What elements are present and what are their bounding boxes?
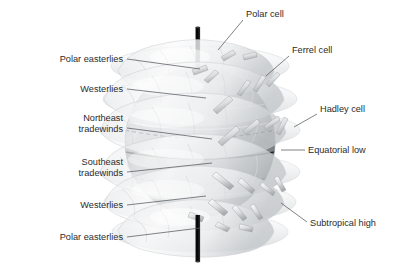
label-northeast-tradewinds-line2: tradewinds xyxy=(79,124,124,134)
label-polar-easterlies-north: Polar easterlies xyxy=(60,54,124,64)
label-westerlies-north: Westerlies xyxy=(80,84,123,94)
diagram-canvas: Polar easterlies Westerlies Northeast tr… xyxy=(0,0,409,272)
label-equatorial-low: Equatorial low xyxy=(308,145,366,155)
label-polar-cell: Polar cell xyxy=(246,9,284,19)
label-hadley-cell: Hadley cell xyxy=(320,104,365,114)
label-southeast-tradewinds-line2: tradewinds xyxy=(79,168,124,178)
label-southeast-tradewinds-line1: Southeast xyxy=(82,157,124,167)
global-circulation-diagram: Polar easterlies Westerlies Northeast tr… xyxy=(0,0,409,272)
label-subtropical-high: Subtropical high xyxy=(310,218,376,228)
label-westerlies-south: Westerlies xyxy=(80,200,123,210)
label-polar-easterlies-south: Polar easterlies xyxy=(60,232,124,242)
earth-axis-south xyxy=(196,215,201,263)
label-ferrel-cell: Ferrel cell xyxy=(292,45,332,55)
label-northeast-tradewinds-line1: Northeast xyxy=(83,113,123,123)
